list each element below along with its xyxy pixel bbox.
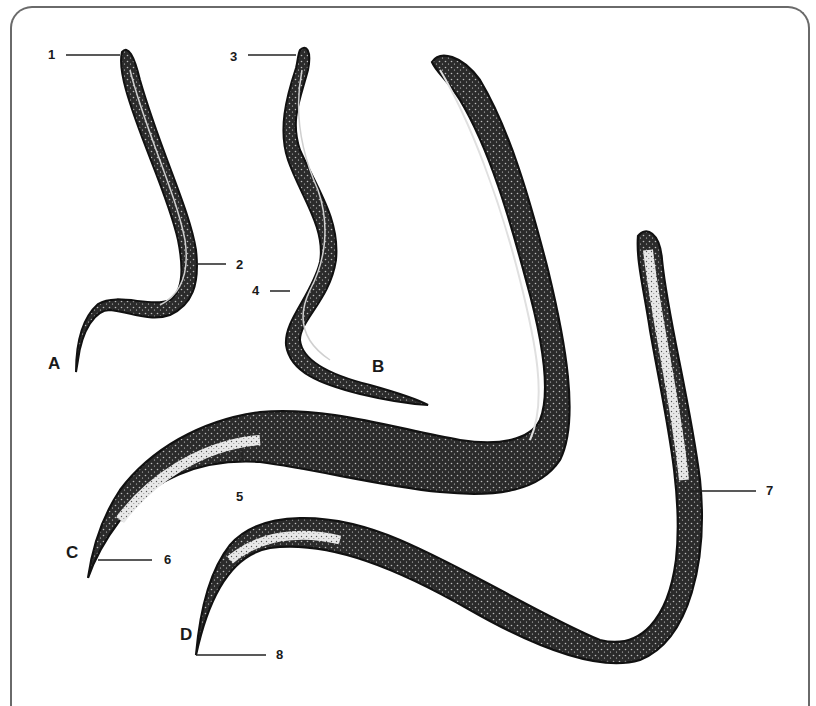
specimen-b-body bbox=[283, 48, 428, 405]
callout-5: 5 bbox=[236, 490, 243, 503]
specimen-label-d: D bbox=[180, 626, 192, 643]
callout-4: 4 bbox=[252, 284, 259, 297]
callout-3: 3 bbox=[230, 50, 237, 63]
callout-6: 6 bbox=[164, 553, 171, 566]
specimen-label-c: C bbox=[66, 544, 78, 561]
specimen-label-a: A bbox=[48, 355, 60, 372]
specimen-label-b: B bbox=[372, 358, 384, 375]
callout-1: 1 bbox=[48, 48, 55, 61]
callout-7: 7 bbox=[766, 484, 773, 497]
specimen-a-body bbox=[76, 50, 197, 372]
callout-8: 8 bbox=[276, 648, 283, 661]
callout-2: 2 bbox=[236, 258, 243, 271]
